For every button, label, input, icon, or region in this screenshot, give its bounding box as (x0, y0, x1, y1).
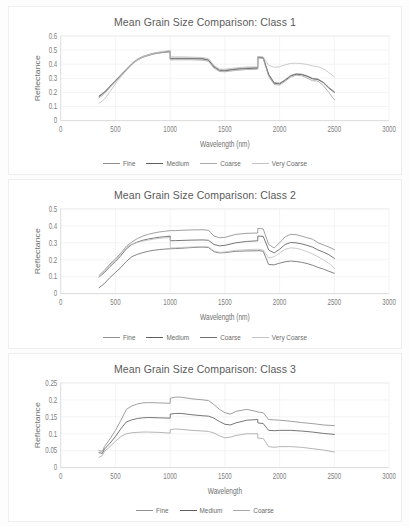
plot-area-class-1: 00.10.20.30.40.50.6050010001500200025003… (9, 28, 401, 160)
legend-label: Fine (123, 160, 135, 167)
svg-text:1500: 1500 (218, 297, 232, 307)
legend-label: Very Coarse (272, 160, 307, 167)
chart-legend-class-2: FineMediumCoarseVery Coarse (9, 334, 401, 348)
legend-label: Coarse (253, 507, 274, 514)
legend-item[interactable]: Fine (103, 160, 135, 167)
legend-item[interactable]: Medium (146, 334, 189, 341)
svg-text:0: 0 (59, 124, 62, 134)
y-axis-title: Reflectance (34, 229, 42, 275)
svg-text:2500: 2500 (327, 297, 341, 307)
legend-label: Very Coarse (272, 334, 307, 341)
legend-label: Medium (166, 334, 189, 341)
legend-item[interactable]: Very Coarse (252, 334, 307, 341)
chart-panel-class-2: Mean Grain Size Comparison: Class 2 00.1… (8, 179, 402, 348)
chart-panel-class-3: Mean Grain Size Comparison: Class 3 00.0… (8, 353, 402, 522)
legend-swatch-icon (252, 163, 269, 164)
legend-item[interactable]: Fine (103, 334, 135, 341)
svg-text:0.6: 0.6 (49, 31, 58, 41)
y-axis-title: Reflectance (34, 55, 42, 101)
svg-text:1500: 1500 (218, 124, 232, 134)
chart-panel-class-1: Mean Grain Size Comparison: Class 1 00.1… (8, 6, 402, 175)
x-axis-title: Wavelength (nm) (200, 313, 250, 323)
svg-text:1000: 1000 (163, 471, 177, 481)
chart-svg-class-2: 00.10.20.30.40.5050010001500200025003000… (9, 201, 401, 333)
legend-item[interactable]: Medium (180, 507, 223, 514)
svg-text:3000: 3000 (382, 124, 396, 134)
svg-text:2000: 2000 (273, 124, 287, 134)
legend-swatch-icon (252, 337, 269, 338)
legend-swatch-icon (200, 163, 217, 164)
x-axis-title: Wavelength (nm) (200, 139, 250, 149)
svg-text:0: 0 (54, 289, 57, 299)
svg-text:1000: 1000 (163, 297, 177, 307)
legend-swatch-icon (233, 510, 250, 511)
svg-text:3000: 3000 (382, 297, 396, 307)
svg-text:0.4: 0.4 (49, 221, 58, 231)
chart-svg-class-3: 00.050.10.150.20.25050010001500200025003… (9, 375, 401, 507)
legend-swatch-icon (103, 163, 120, 164)
svg-text:500: 500 (110, 297, 120, 307)
svg-text:0.1: 0.1 (49, 272, 58, 282)
svg-text:2000: 2000 (273, 297, 287, 307)
x-axis-title: Wavelength (208, 486, 242, 496)
legend-swatch-icon (200, 337, 217, 338)
svg-text:500: 500 (110, 471, 120, 481)
legend-item[interactable]: Coarse (200, 160, 241, 167)
svg-text:0.2: 0.2 (49, 394, 58, 404)
svg-text:0.2: 0.2 (49, 255, 58, 265)
svg-text:0.15: 0.15 (45, 411, 57, 421)
legend-label: Medium (166, 160, 189, 167)
chart-title: Mean Grain Size Comparison: Class 2 (9, 180, 401, 201)
legend-item[interactable]: Coarse (233, 507, 274, 514)
svg-text:0.3: 0.3 (49, 73, 58, 83)
svg-text:2000: 2000 (273, 471, 287, 481)
chart-svg-class-1: 00.10.20.30.40.50.6050010001500200025003… (9, 28, 401, 160)
legend-swatch-icon (146, 163, 163, 164)
legend-swatch-icon (103, 337, 120, 338)
svg-text:0: 0 (54, 462, 57, 472)
svg-text:0.25: 0.25 (45, 377, 57, 387)
chart-legend-class-3: FineMediumCoarse (9, 507, 401, 521)
legend-swatch-icon (136, 510, 153, 511)
y-axis-title: Reflectance (34, 402, 42, 448)
legend-item[interactable]: Medium (146, 160, 189, 167)
svg-text:0.3: 0.3 (49, 238, 58, 248)
svg-text:0: 0 (59, 471, 62, 481)
svg-text:0.05: 0.05 (45, 445, 57, 455)
legend-label: Fine (156, 507, 168, 514)
legend-label: Medium (200, 507, 223, 514)
chart-title: Mean Grain Size Comparison: Class 3 (9, 354, 401, 375)
figure-page: Mean Grain Size Comparison: Class 1 00.1… (0, 0, 410, 526)
svg-text:0.5: 0.5 (49, 45, 58, 55)
legend-label: Coarse (220, 160, 241, 167)
svg-text:0: 0 (54, 115, 57, 125)
svg-text:0.4: 0.4 (49, 59, 58, 69)
legend-swatch-icon (180, 510, 197, 511)
legend-item[interactable]: Fine (136, 507, 168, 514)
svg-text:0.1: 0.1 (49, 428, 58, 438)
chart-title: Mean Grain Size Comparison: Class 1 (9, 7, 401, 28)
legend-swatch-icon (146, 337, 163, 338)
plot-area-class-2: 00.10.20.30.40.5050010001500200025003000… (9, 201, 401, 333)
legend-label: Fine (123, 334, 135, 341)
svg-text:0.5: 0.5 (49, 204, 58, 214)
svg-text:0: 0 (59, 297, 62, 307)
svg-text:0.1: 0.1 (49, 101, 58, 111)
svg-text:3000: 3000 (382, 471, 396, 481)
legend-item[interactable]: Coarse (200, 334, 241, 341)
svg-text:2500: 2500 (327, 124, 341, 134)
svg-text:2500: 2500 (327, 471, 341, 481)
chart-legend-class-1: FineMediumCoarseVery Coarse (9, 160, 401, 174)
svg-text:1500: 1500 (218, 471, 232, 481)
legend-label: Coarse (220, 334, 241, 341)
svg-text:500: 500 (110, 124, 120, 134)
plot-area-class-3: 00.050.10.150.20.25050010001500200025003… (9, 375, 401, 507)
svg-text:1000: 1000 (163, 124, 177, 134)
legend-item[interactable]: Very Coarse (252, 160, 307, 167)
svg-text:0.2: 0.2 (49, 87, 58, 97)
